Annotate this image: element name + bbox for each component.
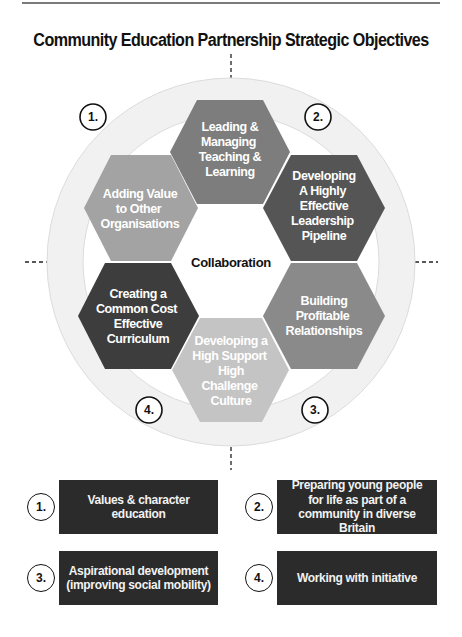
legend-number-3: 3. — [27, 564, 55, 592]
legend-item-4: 4. Working with initiative — [245, 551, 437, 605]
legend-item-2: 2. Preparing young people for life as pa… — [245, 480, 437, 534]
objectives-diagram: Leading &Managing Teaching &Learning Dev… — [0, 0, 462, 637]
ring-marker-1: 1. — [80, 104, 106, 130]
legend-item-3: 3. Aspirational development (improving s… — [27, 551, 218, 605]
ring-marker-3: 3. — [302, 397, 328, 423]
svg-text:1.: 1. — [88, 110, 98, 124]
legend-text-3: Aspirational development (improving soci… — [59, 551, 218, 605]
hexagon-top-label: Leading &Managing Teaching &Learning — [199, 120, 262, 179]
legend-number-4: 4. — [245, 564, 273, 592]
legend-number-2: 2. — [245, 493, 273, 521]
center-label: Collaboration — [191, 255, 271, 270]
ring-marker-2: 2. — [305, 104, 331, 130]
legend-text-1: Values & character education — [59, 480, 218, 534]
svg-text:4.: 4. — [144, 403, 154, 417]
svg-text:2.: 2. — [313, 110, 323, 124]
legend-text-2: Preparing young people for life as part … — [277, 480, 437, 534]
legend-number-1: 1. — [27, 493, 55, 521]
legend-item-1: 1. Values & character education — [27, 480, 218, 534]
legend-text-4: Working with initiative — [277, 551, 437, 605]
ring-marker-4: 4. — [136, 397, 162, 423]
svg-text:3.: 3. — [310, 403, 320, 417]
